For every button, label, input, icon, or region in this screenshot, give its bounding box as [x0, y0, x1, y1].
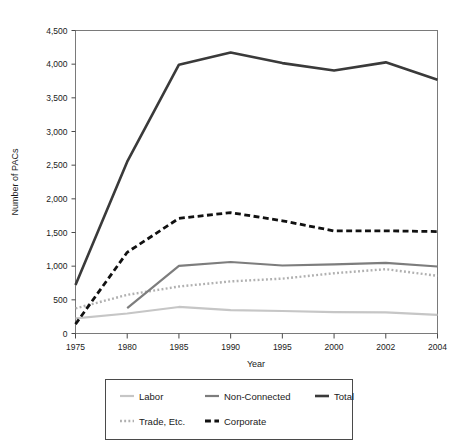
y-tick-label: 4,500 [46, 26, 68, 36]
x-tick-label: 2004 [428, 342, 447, 352]
chart-background [0, 0, 459, 445]
y-tick-label: 2,500 [46, 160, 68, 170]
y-tick-label: 3,500 [46, 93, 68, 103]
legend-label-trade-etc: Trade, Etc. [139, 416, 185, 427]
y-tick-label: 3,000 [46, 127, 68, 137]
x-tick-label: 2000 [325, 342, 344, 352]
x-tick-label: 1985 [169, 342, 188, 352]
y-tick-label: 1,500 [46, 228, 68, 238]
x-tick-label: 1995 [273, 342, 292, 352]
y-tick-label: 0 [63, 329, 68, 339]
legend-label-labor: Labor [139, 391, 163, 402]
pac-growth-line-chart: 05001,0001,5002,0002,5003,0003,5004,0004… [0, 0, 459, 445]
x-axis-title: Year [247, 359, 265, 369]
y-tick-label: 1,000 [46, 261, 68, 271]
x-tick-label: 2002 [376, 342, 395, 352]
y-axis-title: Number of PACs [10, 148, 20, 215]
y-tick-label: 4,000 [46, 59, 68, 69]
y-tick-label: 500 [53, 295, 67, 305]
x-tick-label: 1990 [221, 342, 240, 352]
x-tick-label: 1980 [118, 342, 137, 352]
x-tick-label: 1975 [66, 342, 85, 352]
legend-label-corporate: Corporate [224, 416, 266, 427]
y-tick-label: 2,000 [46, 194, 68, 204]
legend-label-total: Total [334, 391, 354, 402]
legend-label-non-connected: Non-Connected [224, 391, 291, 402]
